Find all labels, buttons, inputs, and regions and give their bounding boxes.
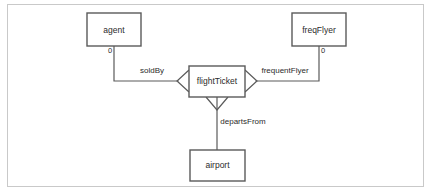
entity-airport-label: airport [205,160,230,170]
entity-flightTicket[interactable]: flightTicket [189,66,245,97]
entity-agent-label: agent [103,25,125,35]
diagram-canvas: agent freqFlyer flightTicket airport sol… [0,0,431,196]
entity-flightTicket-label: flightTicket [197,76,238,86]
entity-airport[interactable]: airport [190,150,245,181]
er-diagram: agent freqFlyer flightTicket airport sol… [0,0,431,196]
relationship-label-departsFrom: departsFrom [220,117,266,126]
relationship-label-frequentFlyer: frequentFlyer [261,66,308,75]
entity-freqFlyer[interactable]: freqFlyer [292,13,346,46]
entity-freqFlyer-label: freqFlyer [302,25,336,35]
entity-agent[interactable]: agent [87,13,141,46]
cardinality-label-freqFlyer: 0 [321,46,325,55]
cardinality-label-agent: 0 [108,46,112,55]
relationship-label-soldBy: soldBy [140,66,164,75]
